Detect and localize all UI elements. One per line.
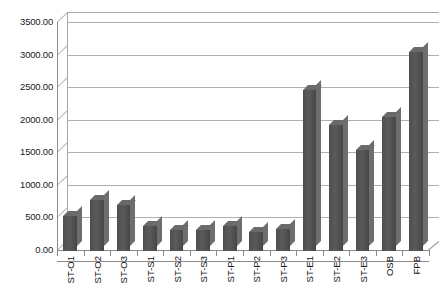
y-tick-label: 0.00: [35, 245, 53, 255]
bar-slot: [90, 22, 104, 251]
bar[interactable]: [329, 125, 343, 251]
bar-slot: [223, 22, 237, 251]
bar-side-face: [396, 107, 401, 246]
x-tick-label: ST-O3: [118, 256, 129, 283]
bar-front-face: [223, 226, 237, 251]
y-tick-label: 1500.00: [20, 147, 53, 157]
x-tick-label: ST-S1: [145, 256, 156, 282]
bar-slot: [143, 22, 157, 251]
x-tick-label: ST-E3: [358, 256, 369, 282]
x-tick-label: ST-P1: [225, 256, 236, 282]
bar-slot: [117, 22, 131, 251]
bar-slot: [303, 22, 317, 251]
bar-slot: [249, 22, 263, 251]
bar-side-face: [423, 42, 428, 246]
x-tick-label: ST-S2: [172, 256, 183, 282]
bar[interactable]: [223, 226, 237, 251]
y-tick-label: 3000.00: [20, 50, 53, 60]
bar-side-face: [130, 195, 135, 246]
x-tick-label: ST-O2: [92, 256, 103, 283]
bar[interactable]: [63, 216, 77, 251]
bar-front-face: [249, 232, 263, 251]
bar-front-face: [303, 90, 317, 251]
bar-slot: [196, 22, 210, 251]
bar-slot: [382, 22, 396, 251]
bar-slot: [329, 22, 343, 251]
y-tick-label: 1000.00: [20, 180, 53, 190]
bar[interactable]: [90, 200, 104, 251]
bar-series: [57, 22, 429, 251]
x-tick-label: ST-P3: [278, 256, 289, 282]
bar[interactable]: [303, 90, 317, 251]
bar-side-face: [263, 222, 268, 246]
bar-side-face: [157, 216, 162, 246]
bar-side-face: [290, 219, 295, 246]
bar-slot: [170, 22, 184, 251]
bar-front-face: [409, 52, 423, 251]
bar-chart: 0.00500.001000.001500.002000.002500.0030…: [0, 0, 448, 300]
plot-area: [57, 12, 439, 262]
bar-slot: [276, 22, 290, 251]
bar-side-face: [77, 206, 82, 246]
bar-front-face: [143, 226, 157, 251]
bar[interactable]: [170, 230, 184, 251]
bar-front-face: [90, 200, 104, 251]
bar[interactable]: [409, 52, 423, 251]
bar-side-face: [369, 140, 374, 246]
bar-slot: [356, 22, 370, 251]
x-tick-label: ST-E1: [304, 256, 315, 282]
bar[interactable]: [143, 226, 157, 251]
bar-front-face: [63, 216, 77, 251]
x-tick-label: ST-E2: [331, 256, 342, 282]
x-tick-label: OSB: [384, 256, 395, 276]
bar-front-face: [356, 150, 370, 251]
bar[interactable]: [117, 205, 131, 251]
bar-front-face: [276, 229, 290, 251]
bar-slot: [63, 22, 77, 251]
bar-side-face: [104, 190, 109, 246]
bar[interactable]: [382, 117, 396, 251]
bar-side-face: [316, 80, 321, 246]
bar-side-face: [343, 115, 348, 246]
x-tick-label: ST-S3: [198, 256, 209, 282]
bar-side-face: [237, 216, 242, 246]
bar-side-face: [183, 220, 188, 246]
bar-front-face: [117, 205, 131, 251]
y-axis-labels: 0.00500.001000.001500.002000.002500.0030…: [0, 0, 56, 300]
x-axis-labels: ST-O1ST-O2ST-O3ST-S1ST-S2ST-S3ST-P1ST-P2…: [57, 256, 439, 300]
y-tick-label: 3500.00: [20, 17, 53, 27]
y-tick-label: 500.00: [25, 212, 53, 222]
bar-slot: [409, 22, 423, 251]
bar-side-face: [210, 220, 215, 246]
x-tick-label: FPB: [411, 256, 422, 274]
x-tick-label: ST-O1: [65, 256, 76, 283]
y-tick-label: 2500.00: [20, 82, 53, 92]
bar-front-face: [196, 230, 210, 251]
y-tick-label: 2000.00: [20, 115, 53, 125]
bar[interactable]: [249, 232, 263, 251]
bar-front-face: [329, 125, 343, 251]
x-tick-label: ST-P2: [251, 256, 262, 282]
bar-front-face: [382, 117, 396, 251]
bar[interactable]: [356, 150, 370, 251]
bar-front-face: [170, 230, 184, 251]
bar[interactable]: [196, 230, 210, 251]
bar[interactable]: [276, 229, 290, 251]
